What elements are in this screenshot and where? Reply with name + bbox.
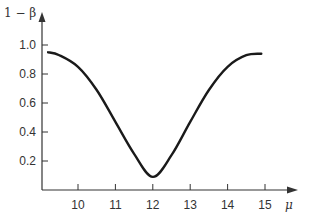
x-tick-label: 10 [71, 198, 85, 212]
x-tick-label: 12 [146, 198, 160, 212]
x-ticks: 101112131415 [71, 184, 272, 212]
y-ticks: 0.20.40.60.81.0 [19, 38, 48, 168]
x-tick-label: 11 [109, 198, 122, 212]
power-curve-chart: 0.20.40.60.81.0 101112131415 1 − β μ [0, 0, 313, 216]
y-tick-label: 0.6 [19, 96, 36, 110]
y-tick-label: 0.4 [19, 125, 36, 139]
x-axis-label: μ [285, 198, 293, 212]
y-axis-label: 1 − β [4, 6, 36, 20]
y-axis-arrow-icon [39, 12, 46, 22]
y-tick-label: 0.8 [19, 67, 36, 81]
y-tick-label: 1.0 [19, 38, 36, 52]
x-tick-label: 15 [258, 198, 272, 212]
x-axis-arrow-icon [287, 187, 298, 194]
y-tick-label: 0.2 [19, 154, 36, 168]
x-tick-label: 13 [184, 198, 198, 212]
x-tick-label: 14 [221, 198, 235, 212]
power-curve-line [48, 52, 261, 177]
